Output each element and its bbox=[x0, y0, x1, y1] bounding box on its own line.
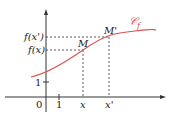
function-graph: 0 1 1 x x' f(x') f(x) M M' 𝒞f bbox=[0, 0, 170, 116]
fx-prime-label: f(x') bbox=[23, 31, 44, 42]
curve-cf bbox=[31, 29, 156, 77]
x-label: x bbox=[80, 99, 86, 110]
point-m-label: M bbox=[77, 38, 89, 49]
curve-name-label: 𝒞f bbox=[129, 15, 142, 30]
origin-label: 0 bbox=[36, 99, 42, 110]
point-m-prime-label: M' bbox=[103, 25, 117, 36]
y-unit-label: 1 bbox=[35, 77, 41, 88]
fx-label: f(x) bbox=[27, 44, 45, 55]
x-unit-label: 1 bbox=[56, 99, 62, 110]
x-axis-arrow-icon bbox=[160, 95, 166, 99]
x-prime-label: x' bbox=[105, 99, 113, 110]
y-axis-arrow-icon bbox=[44, 9, 48, 15]
